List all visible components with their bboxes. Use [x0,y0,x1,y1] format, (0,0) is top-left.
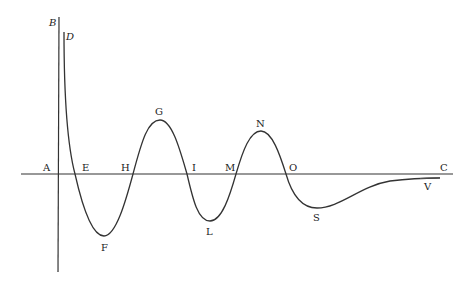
point-label-a: A [42,162,51,173]
point-label-o: O [289,162,297,173]
point-label-s: S [313,212,320,223]
point-label-d: D [65,31,74,42]
point-labels: ABDEFHGILMNOSVC [42,17,448,253]
point-label-e: E [82,162,89,173]
damped-oscillation-diagram: ABDEFHGILMNOSVC [0,0,474,283]
point-label-g: G [155,106,163,117]
vertical-axis-b [58,17,59,272]
point-label-l: L [206,226,213,237]
point-label-m: M [225,162,235,173]
point-label-i: I [192,162,196,173]
damped-curve [64,32,440,236]
point-label-c: C [440,162,448,173]
point-label-b: B [48,17,56,28]
point-label-h: H [121,162,130,173]
point-label-n: N [256,118,265,129]
point-label-f: F [101,242,108,253]
point-label-v: V [423,181,432,192]
